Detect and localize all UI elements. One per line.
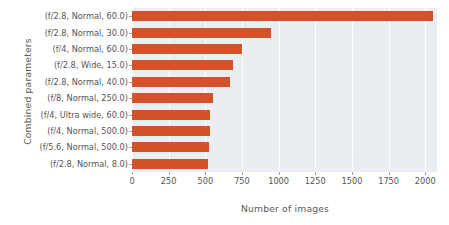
bar[interactable] bbox=[132, 28, 271, 38]
plot-area bbox=[132, 8, 437, 172]
y-axis-tick-label: (f/8, Normal, 250.0) bbox=[0, 93, 128, 103]
y-axis-tick-mark bbox=[129, 147, 132, 148]
y-axis-tick-label: (f/4, Normal, 60.0) bbox=[0, 44, 128, 54]
bar-row[interactable] bbox=[132, 126, 437, 136]
x-axis-tick-label: 2000 bbox=[395, 176, 449, 186]
x-axis-tick-mark bbox=[169, 172, 170, 175]
x-axis-tick-mark bbox=[389, 172, 390, 175]
bar[interactable] bbox=[132, 126, 210, 136]
x-axis-tick-mark bbox=[352, 172, 353, 175]
bar-chart-figure: Combined parameters (f/2.8, Normal, 60.0… bbox=[0, 0, 449, 225]
y-axis-tick-label: (f/2.8, Normal, 8.0) bbox=[0, 159, 128, 169]
bar[interactable] bbox=[132, 110, 210, 120]
y-axis-tick-mark bbox=[129, 131, 132, 132]
x-axis-title: Number of images bbox=[132, 203, 438, 214]
y-axis-tick-mark bbox=[129, 16, 132, 17]
bar[interactable] bbox=[132, 60, 233, 70]
y-axis-tick-mark bbox=[129, 49, 132, 50]
x-axis-tick-mark bbox=[425, 172, 426, 175]
x-axis-tick-mark bbox=[279, 172, 280, 175]
y-axis-tick-label: (f/4, Ultra wide, 60.0) bbox=[0, 110, 128, 120]
bar-series bbox=[132, 8, 437, 172]
bar[interactable] bbox=[132, 11, 433, 21]
bar[interactable] bbox=[132, 77, 230, 87]
y-axis-tick-mark bbox=[129, 98, 132, 99]
y-axis-tick-mark bbox=[129, 115, 132, 116]
bar[interactable] bbox=[132, 44, 242, 54]
bar[interactable] bbox=[132, 142, 209, 152]
y-axis-tick-mark bbox=[129, 164, 132, 165]
bar-row[interactable] bbox=[132, 110, 437, 120]
bar-row[interactable] bbox=[132, 44, 437, 54]
x-axis-tick-mark bbox=[242, 172, 243, 175]
bar-row[interactable] bbox=[132, 11, 437, 21]
bar-row[interactable] bbox=[132, 77, 437, 87]
bar-row[interactable] bbox=[132, 60, 437, 70]
y-axis-tick-label: (f/5.6, Normal, 500.0) bbox=[0, 142, 128, 152]
y-axis-tick-label: (f/2.8, Wide, 15.0) bbox=[0, 60, 128, 70]
y-axis-tick-mark bbox=[129, 33, 132, 34]
y-axis-tick-label: (f/2.8, Normal, 30.0) bbox=[0, 28, 128, 38]
y-axis-tick-label: (f/2.8, Normal, 40.0) bbox=[0, 77, 128, 87]
y-axis-tick-mark bbox=[129, 65, 132, 66]
y-axis-tick-label: (f/2.8, Normal, 60.0) bbox=[0, 11, 128, 21]
x-axis-tick-mark bbox=[205, 172, 206, 175]
bar[interactable] bbox=[132, 159, 208, 169]
y-axis-tick-mark bbox=[129, 82, 132, 83]
bar[interactable] bbox=[132, 93, 213, 103]
y-axis-tick-label: (f/4, Normal, 500.0) bbox=[0, 126, 128, 136]
bar-row[interactable] bbox=[132, 93, 437, 103]
x-axis-tick-mark bbox=[132, 172, 133, 175]
bar-row[interactable] bbox=[132, 28, 437, 38]
bar-row[interactable] bbox=[132, 142, 437, 152]
bar-row[interactable] bbox=[132, 159, 437, 169]
x-axis-tick-mark bbox=[315, 172, 316, 175]
